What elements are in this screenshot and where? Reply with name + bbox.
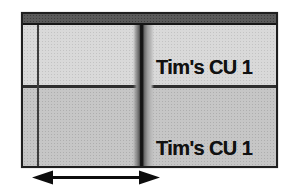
playhead[interactable] [133,25,154,166]
timeline-panel: Tim's CU 1 Tim's CU 1 [21,12,278,168]
double-arrow-icon [28,167,164,189]
edit-point-line [37,25,39,166]
clip-label: Tim's CU 1 [156,56,252,79]
timeline-header-bar [23,14,276,25]
clip-label: Tim's CU 1 [156,137,252,160]
timeline-figure: Tim's CU 1 Tim's CU 1 [0,0,287,191]
